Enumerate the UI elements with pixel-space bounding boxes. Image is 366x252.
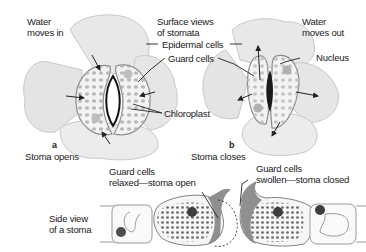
stoma-pore-open [106,76,120,126]
nucleus-label: Nucleus [316,52,349,63]
guard-cells-label: Guard cells [168,53,214,64]
panel-a-caption: Stoma opens [25,151,79,162]
nucleus [92,114,101,123]
nucleus [273,207,283,217]
side-view [100,180,366,247]
nucleus [187,207,197,217]
nucleus [124,70,133,79]
panel-b-caption: Stoma closes [191,151,246,162]
surface-views-label: Surface views of stomata [157,16,214,38]
panel-b-letter: b [229,140,235,150]
epidermal-cells-label: Epidermal cells [162,39,223,50]
chloroplast-label: Chloroplast [164,108,210,119]
water-moves-out-label: Water moves out [302,16,344,38]
water-moves-in-label: Water moves in [27,16,63,38]
nucleus [254,104,263,113]
panel-a-letter: a [52,140,57,150]
nucleus [283,66,292,75]
side-view-label: Side view of a stoma [49,213,91,235]
guard-cells-relaxed-label: Guard cells relaxed—stoma open [109,166,196,188]
guard-cells-swollen-label: Guard cells swollen—stoma closed [256,163,349,185]
nucleus [116,227,126,237]
nucleus [315,205,325,215]
epidermal-cell-side [112,205,152,243]
